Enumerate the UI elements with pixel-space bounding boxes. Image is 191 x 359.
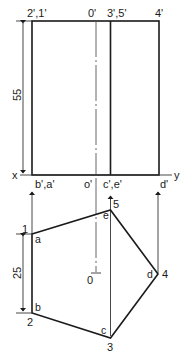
vertex-number-2: 2 bbox=[27, 316, 33, 328]
label-x: x bbox=[12, 169, 18, 181]
label-y: y bbox=[174, 169, 180, 181]
top-view: 1 a 2 b 3 c 4 d 5 e 0 25 bbox=[11, 198, 168, 353]
vertex-number-4: 4 bbox=[162, 268, 168, 280]
label-0-prime: 0' bbox=[88, 7, 96, 19]
projection-drawing: 2',1' 0' 3',5' 4' 55 x y b',a' o' c',e' … bbox=[0, 0, 191, 359]
vertex-letter-c: c bbox=[101, 324, 106, 336]
label-d-prime: d' bbox=[160, 178, 168, 190]
vertex-number-3: 3 bbox=[107, 341, 113, 353]
center-label-0: 0 bbox=[87, 274, 93, 286]
pentagon-outline bbox=[32, 210, 158, 338]
label-c-e-prime: c',e' bbox=[103, 178, 122, 190]
dimension-value-55: 55 bbox=[11, 89, 23, 101]
label-b-a-prime: b',a' bbox=[35, 178, 55, 190]
projectors bbox=[32, 178, 158, 336]
vertex-letter-e: e bbox=[103, 209, 109, 221]
vertex-number-5: 5 bbox=[113, 198, 119, 210]
front-view: 2',1' 0' 3',5' 4' 55 bbox=[11, 7, 163, 175]
vertex-letter-b: b bbox=[35, 301, 41, 313]
vertex-letter-a: a bbox=[35, 233, 41, 245]
label-3-5-prime: 3',5' bbox=[107, 7, 127, 19]
label-4-prime: 4' bbox=[155, 7, 163, 19]
front-view-outline bbox=[32, 21, 159, 175]
dimension-value-25: 25 bbox=[11, 267, 23, 279]
label-o-prime: o' bbox=[84, 178, 92, 190]
label-2-1-prime: 2',1' bbox=[27, 7, 47, 19]
vertex-number-1: 1 bbox=[22, 223, 28, 235]
vertex-letter-d: d bbox=[147, 268, 153, 280]
